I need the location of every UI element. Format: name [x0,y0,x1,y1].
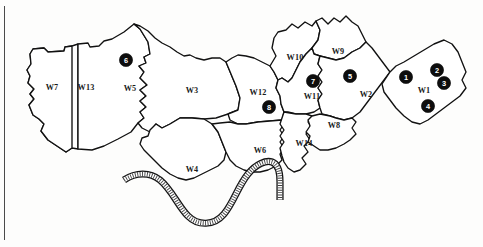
marker-label-5: 5 [348,72,352,81]
ward-label-W1: W1 [418,86,431,95]
ward-label-W3: W3 [186,86,199,95]
ward-label-W2: W2 [360,90,373,99]
ward-label-W8: W8 [328,121,341,130]
marker-label-8: 8 [267,103,271,112]
site-marker-7[interactable]: 7 [306,74,319,87]
site-marker-8[interactable]: 8 [262,100,275,113]
site-marker-5[interactable]: 5 [343,69,356,82]
ward-label-W10: W10 [287,53,304,62]
ward-label-W14: W14 [296,139,313,148]
ward-label-W6: W6 [254,146,267,155]
site-marker-1[interactable]: 1 [399,70,412,83]
site-marker-2[interactable]: 2 [430,63,443,76]
site-marker-3[interactable]: 3 [437,76,450,89]
marker-label-2: 2 [435,66,439,75]
ward-label-W12: W12 [250,88,267,97]
site-marker-4[interactable]: 4 [421,99,434,112]
ward-label-W9: W9 [332,47,345,56]
marker-label-7: 7 [311,77,315,86]
marker-label-6: 6 [124,56,128,65]
ward-label-W13: W13 [78,83,95,92]
site-marker-6[interactable]: 6 [119,53,132,66]
marker-label-3: 3 [442,79,446,88]
ward-label-W4: W4 [186,165,199,174]
ward-label-W11: W11 [304,92,321,101]
marker-label-1: 1 [404,73,408,82]
map-canvas: W1 W2 W3 W4 W5 W6 W7 W8 W9 W10 W11 W12 W… [0,0,483,247]
ward-map: W1 W2 W3 W4 W5 W6 W7 W8 W9 W10 W11 W12 W… [0,0,483,247]
ward-label-W7: W7 [46,83,59,92]
ward-label-W5: W5 [124,84,137,93]
